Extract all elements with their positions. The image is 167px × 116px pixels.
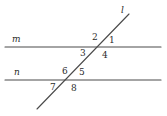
angle-label-2: 2 (92, 33, 98, 42)
angle-label-3: 3 (80, 49, 86, 58)
line-label-l: l (121, 6, 124, 15)
angle-label-1: 1 (109, 36, 115, 45)
angle-label-6: 6 (62, 67, 68, 76)
line-label-n: n (14, 68, 20, 77)
line-label-m: m (12, 35, 21, 44)
geometry-diagram: m n l 1 2 3 4 5 6 7 8 (0, 0, 167, 116)
diagram-canvas (0, 0, 167, 116)
angle-label-5: 5 (79, 68, 85, 77)
angle-label-8: 8 (71, 84, 77, 93)
angle-label-7: 7 (50, 83, 56, 92)
transversal-line-l (37, 14, 129, 109)
angle-label-4: 4 (102, 51, 108, 60)
